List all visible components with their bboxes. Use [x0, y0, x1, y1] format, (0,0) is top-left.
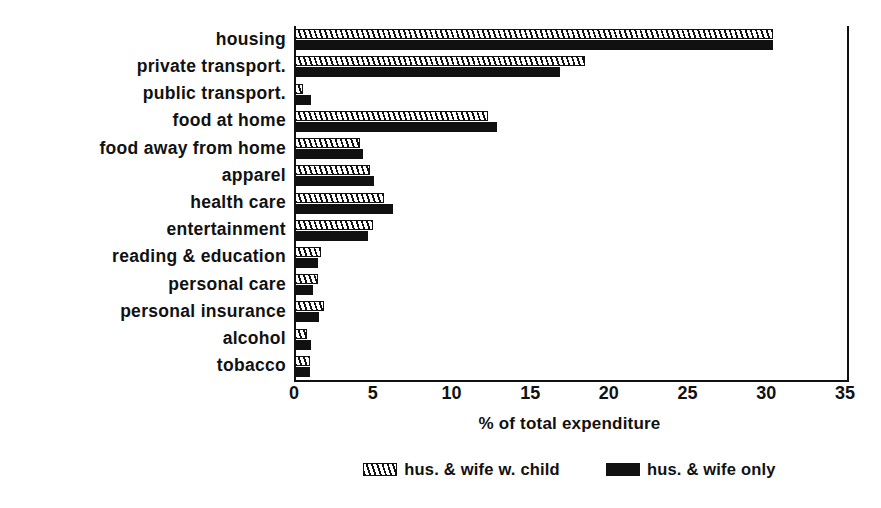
x-axis-title: % of total expenditure [294, 414, 845, 434]
category-label: personal care [168, 276, 286, 294]
legend-label: hus. & wife only [647, 460, 776, 479]
category-label: health care [190, 194, 286, 212]
category-label: food at home [173, 112, 286, 130]
expenditure-bar-chart: housingprivate transport.public transpor… [0, 0, 881, 508]
x-axis-ticks: 05101520253035 [294, 384, 845, 410]
x-tick-label: 25 [678, 384, 698, 402]
category-label: food away from home [99, 140, 286, 158]
x-tick-label: 10 [441, 384, 461, 402]
x-tick-label: 5 [368, 384, 378, 402]
category-label: alcohol [223, 330, 286, 348]
category-label: personal insurance [120, 303, 286, 321]
category-label: private transport. [137, 58, 286, 76]
plot-frame [294, 26, 849, 382]
x-tick-label: 35 [835, 384, 855, 402]
legend-label: hus. & wife w. child [404, 460, 560, 479]
category-label: housing [216, 31, 286, 49]
category-label: entertainment [166, 221, 286, 239]
category-label: public transport. [143, 85, 286, 103]
x-tick-label: 30 [756, 384, 776, 402]
category-label: apparel [222, 167, 286, 185]
legend-item: hus. & wife only [606, 460, 776, 479]
chart-legend: hus. & wife w. childhus. & wife only [294, 460, 845, 479]
legend-item: hus. & wife w. child [363, 460, 560, 479]
x-tick-label: 20 [599, 384, 619, 402]
legend-solid-swatch-icon [606, 463, 640, 476]
x-tick-label: 15 [520, 384, 540, 402]
category-label: tobacco [217, 357, 286, 375]
legend-hatch-swatch-icon [363, 463, 397, 476]
x-tick-label: 0 [289, 384, 299, 402]
category-label: reading & education [112, 248, 286, 266]
category-axis-labels: housingprivate transport.public transpor… [0, 26, 290, 380]
